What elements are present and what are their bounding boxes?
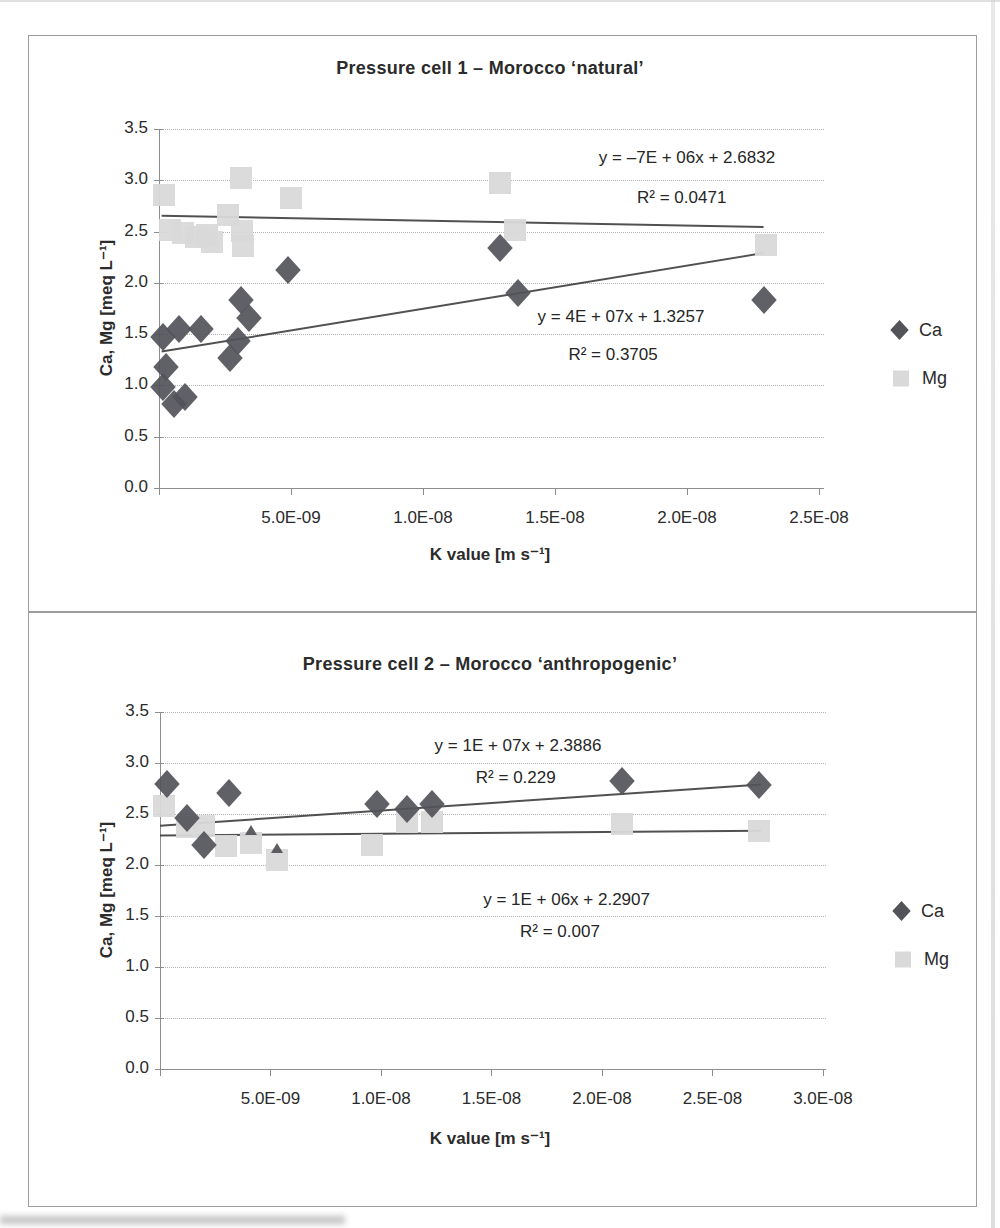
legend-item-ca: Ca [895,901,944,922]
legend-square-icon [895,951,911,967]
gridline [160,916,826,917]
gridline [160,865,826,866]
y-axis-line [160,712,161,1076]
trendline-layer [0,0,1000,1228]
data-point-ca [746,771,771,799]
x-tick-mark [270,1069,271,1076]
gridline [160,712,826,713]
x-tick-mark [823,1069,824,1076]
data-point-mg [748,820,770,842]
data-point-mg [215,835,237,857]
trendline-ca [160,784,761,825]
legend-label-mg: Mg [924,949,949,970]
triangle-mark [245,825,257,835]
equation-mg: y = 1E + 06x + 2.2907 [483,890,650,910]
y-tick-label: 0.0 [107,1058,149,1078]
y-tick-label: 2.0 [107,854,149,874]
data-point-mg [361,834,383,856]
gridline [160,763,826,764]
y-tick-label: 3.5 [107,701,149,721]
legend-label-ca: Ca [921,901,944,922]
triangle-mark [271,843,283,853]
x-tick-label: 3.0E-08 [778,1089,868,1109]
gridline [160,1018,826,1019]
x-tick-label: 2.0E-08 [557,1089,647,1109]
y-tick-label: 2.5 [107,803,149,823]
chart2-plot-area: 3.53.02.52.01.51.00.50.05.0E-091.0E-081.… [0,0,1000,1228]
equation-ca: y = 1E + 07x + 2.3886 [435,736,602,756]
x-tick-label: 2.5E-08 [667,1089,757,1109]
x-tick-mark [602,1069,603,1076]
x-axis-line [160,1069,826,1070]
r-squared-mg: R² = 0.007 [520,922,600,942]
x-tick-label: 5.0E-09 [225,1089,315,1109]
legend-item-mg: Mg [895,949,949,970]
r-squared-ca: R² = 0.229 [476,768,556,788]
y-tick-label: 0.5 [107,1007,149,1027]
gridline [160,967,826,968]
x-tick-mark [712,1069,713,1076]
y-tick-label: 1.5 [107,905,149,925]
y-tick-label: 1.0 [107,956,149,976]
y-tick-label: 3.0 [107,752,149,772]
x-tick-label: 1.0E-08 [336,1089,426,1109]
data-point-ca [216,779,241,807]
data-point-mg [611,813,633,835]
x-tick-label: 1.5E-08 [446,1089,536,1109]
figure-page: Pressure cell 1 – Morocco ‘natural’ Pres… [0,0,1000,1228]
data-point-ca [609,767,634,795]
data-point-mg [153,795,175,817]
x-tick-mark [491,1069,492,1076]
legend-diamond-icon [892,901,910,921]
x-tick-mark [381,1069,382,1076]
gridline [160,814,826,815]
